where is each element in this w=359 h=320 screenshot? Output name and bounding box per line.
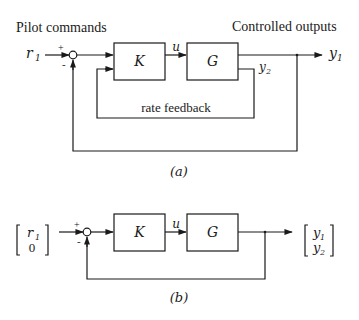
output-bracket-right xyxy=(330,225,333,256)
controller-label-b: K xyxy=(133,224,146,240)
controller-label: K xyxy=(133,53,146,69)
summing-junction xyxy=(69,51,77,59)
diagram-a: Pilot commands Controlled outputs r 1 + … xyxy=(16,19,343,179)
diagram-b: r 1 0 + - K u G y 1 y 2 (b) xyxy=(17,214,333,305)
input-r-subscript: 1 xyxy=(35,53,41,63)
plus-sign: + xyxy=(58,42,64,53)
input-vector-r-subscript: 1 xyxy=(35,233,40,242)
block-diagram-canvas: Pilot commands Controlled outputs r 1 + … xyxy=(0,0,359,320)
input-vector-r: r xyxy=(27,225,34,240)
controlled-outputs-label: Controlled outputs xyxy=(232,19,337,34)
signal-u-label: u xyxy=(172,40,180,54)
rate-feedback-label: rate feedback xyxy=(141,100,211,115)
plus-sign-b: + xyxy=(74,219,80,230)
branch-point xyxy=(296,54,299,57)
signal-u-label-b: u xyxy=(172,217,180,231)
input-bracket-left xyxy=(17,225,20,255)
branch-point-b xyxy=(264,231,267,234)
plant-label-b: G xyxy=(207,224,218,240)
caption-a: (a) xyxy=(170,164,188,179)
input-r-label: r xyxy=(26,45,34,61)
minus-sign: - xyxy=(62,58,66,70)
output-bracket-left xyxy=(305,225,308,256)
output-vector-y1-subscript: 1 xyxy=(320,233,325,242)
pilot-commands-label: Pilot commands xyxy=(16,20,107,35)
input-vector-zero: 0 xyxy=(29,240,36,255)
plant-label: G xyxy=(207,53,218,69)
minus-sign-b: - xyxy=(77,235,81,247)
summing-junction-b xyxy=(83,228,91,236)
output-y2-subscript: 2 xyxy=(265,67,271,76)
input-bracket-right xyxy=(45,225,48,255)
output-vector-y2-subscript: 2 xyxy=(319,248,325,257)
output-y1-subscript: 1 xyxy=(337,53,343,63)
caption-b: (b) xyxy=(170,290,188,305)
output-y2-label: y xyxy=(258,60,266,74)
